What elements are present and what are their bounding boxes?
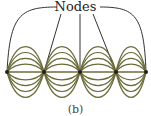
node-dot xyxy=(144,70,148,74)
nodes-label: Nodes xyxy=(0,0,151,14)
node-dot xyxy=(42,70,46,74)
node-dot xyxy=(114,70,118,74)
standing-wave-figure xyxy=(0,0,151,116)
figure-caption: (b) xyxy=(0,104,151,116)
node-dot xyxy=(5,70,9,74)
node-dot xyxy=(78,70,82,74)
